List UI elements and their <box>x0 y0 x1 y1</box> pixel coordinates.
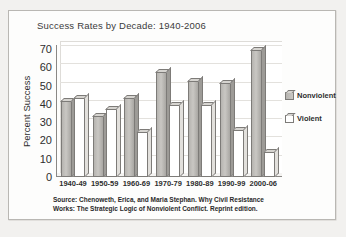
bar-violent-2000-06[interactable] <box>264 151 275 177</box>
x-tick-label: 2000-06 <box>250 179 278 188</box>
y-tick-label: 10 <box>40 153 52 165</box>
y-tick-label: 40 <box>40 98 52 110</box>
y-tick-label: 20 <box>40 134 52 146</box>
bar-face <box>124 97 135 177</box>
bar-violent-1940-49[interactable] <box>74 97 85 177</box>
bar-face <box>74 97 85 177</box>
legend-item-violent[interactable]: Violent <box>285 114 335 123</box>
y-tick-label: 30 <box>40 116 52 128</box>
chart-legend: Nonviolent Violent <box>285 91 335 137</box>
y-tick-label: 70 <box>40 43 52 55</box>
x-tick-label: 1940-49 <box>59 179 87 188</box>
legend-label: Violent <box>297 114 322 123</box>
chart-figure: Success Rates by Decade: 1940-2006 Perce… <box>8 10 336 220</box>
bar-violent-1960-69[interactable] <box>137 131 148 177</box>
figure-page: Success Rates by Decade: 1940-2006 Perce… <box>0 0 346 237</box>
bar-side <box>244 125 248 177</box>
bar-nonviolent-1990-99[interactable] <box>220 82 231 177</box>
y-axis-line <box>56 45 57 177</box>
legend-swatch-icon <box>285 92 294 100</box>
bar-face <box>106 108 117 177</box>
x-tick-label: 1950-59 <box>91 179 119 188</box>
bar-nonviolent-2000-06[interactable] <box>251 49 262 177</box>
bar-face <box>201 104 212 177</box>
bar-group <box>156 45 188 177</box>
bar-face <box>61 100 72 177</box>
bar-face <box>137 131 148 177</box>
bar-side <box>117 104 121 177</box>
y-tick-label: 60 <box>40 61 52 73</box>
bar-side <box>212 100 216 177</box>
x-tick-label: 1970-79 <box>154 179 182 188</box>
bar-violent-1980-89[interactable] <box>201 104 212 177</box>
chart-title: Success Rates by Decade: 1940-2006 <box>37 20 206 31</box>
bar-nonviolent-1970-79[interactable] <box>156 71 167 177</box>
bar-face <box>188 80 199 177</box>
bar-side <box>85 93 89 177</box>
x-tick-label: 1980-89 <box>186 179 214 188</box>
legend-label: Nonviolent <box>297 91 336 100</box>
bar-nonviolent-1980-89[interactable] <box>188 80 199 177</box>
bar-group <box>220 45 252 177</box>
source-note-line-2: Works: The Strategic Logic of Nonviolent… <box>53 204 303 213</box>
legend-swatch-icon <box>285 115 294 123</box>
bar-face <box>93 115 104 177</box>
bar-face <box>156 71 167 177</box>
bar-face <box>251 49 262 177</box>
x-tick-label: 1960-69 <box>123 179 151 188</box>
bar-side <box>275 147 279 177</box>
bar-side <box>148 127 152 177</box>
y-tick-label: 50 <box>40 80 52 92</box>
bar-group <box>188 45 220 177</box>
source-note-line-1: Source: Chenoweth, Erica, and Maria Step… <box>53 195 303 204</box>
bar-nonviolent-1960-69[interactable] <box>124 97 135 177</box>
x-tick-labels: 1940-491950-591960-691970-791980-891990-… <box>56 179 282 191</box>
bar-violent-1950-59[interactable] <box>106 108 117 177</box>
bar-face <box>220 82 231 177</box>
bar-group <box>251 45 283 177</box>
bar-face <box>169 104 180 177</box>
y-axis-title: Percent Success <box>21 49 35 173</box>
bar-group <box>93 45 125 177</box>
x-tick-label: 1990-99 <box>218 179 246 188</box>
bar-violent-1970-79[interactable] <box>169 104 180 177</box>
source-note: Source: Chenoweth, Erica, and Maria Step… <box>53 195 303 213</box>
bar-nonviolent-1940-49[interactable] <box>61 100 72 177</box>
bar-nonviolent-1950-59[interactable] <box>93 115 104 177</box>
legend-item-nonviolent[interactable]: Nonviolent <box>285 91 335 100</box>
y-tick-label: 0 <box>46 171 52 183</box>
plot-area: 010203040506070 <box>56 45 278 177</box>
bar-group <box>124 45 156 177</box>
bar-side <box>180 100 184 177</box>
bar-face <box>233 129 244 177</box>
bar-violent-1990-99[interactable] <box>233 129 244 177</box>
bar-group <box>61 45 93 177</box>
bar-face <box>264 151 275 177</box>
